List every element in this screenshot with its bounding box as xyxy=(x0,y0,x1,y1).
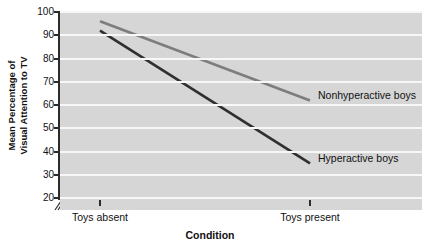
gridline xyxy=(60,197,422,199)
x-tick-mark xyxy=(309,200,311,206)
y-tick-mark xyxy=(54,34,60,36)
gridline xyxy=(60,81,422,83)
y-tick-label: 60 xyxy=(28,100,54,110)
y-tick-label: 40 xyxy=(28,147,54,157)
y-axis-title-line1: Mean Percentage of xyxy=(6,56,18,154)
y-tick-label: 50 xyxy=(28,123,54,133)
gridline xyxy=(60,104,422,106)
y-tick-mark xyxy=(54,81,60,83)
x-tick-label: Toys present xyxy=(280,211,340,223)
x-tick-mark xyxy=(99,200,101,206)
y-tick-mark xyxy=(54,104,60,106)
x-axis-title: Condition xyxy=(60,229,360,241)
y-tick-mark xyxy=(54,58,60,60)
y-tick-mark xyxy=(54,174,60,176)
gridline xyxy=(60,127,422,129)
chart-figure: Mean Percentage of Visual Attention to T… xyxy=(0,0,431,247)
gridline xyxy=(60,174,422,176)
y-tick-mark xyxy=(54,127,60,129)
series-line-1 xyxy=(100,31,310,164)
y-tick-mark xyxy=(54,11,60,13)
y-tick-label: 80 xyxy=(28,54,54,64)
y-tick-mark xyxy=(54,197,60,199)
y-axis-tick-labels: 1009080706050403020 xyxy=(26,0,54,215)
series-label-hyperactive: Hyperactive boys xyxy=(318,152,399,164)
plot-area xyxy=(60,12,422,210)
y-tick-label: 30 xyxy=(28,170,54,180)
series-lines xyxy=(60,12,422,210)
gridline xyxy=(60,58,422,60)
gridline xyxy=(60,11,422,13)
y-tick-label: 70 xyxy=(28,77,54,87)
series-label-nonhyperactive: Nonhyperactive boys xyxy=(318,89,416,101)
gridline xyxy=(60,34,422,36)
y-tick-label: 20 xyxy=(28,193,54,203)
series-line-0 xyxy=(100,21,310,100)
x-tick-label: Toys absent xyxy=(72,211,128,223)
y-tick-label: 100 xyxy=(28,7,54,17)
y-tick-mark xyxy=(54,151,60,153)
y-tick-label: 90 xyxy=(28,30,54,40)
